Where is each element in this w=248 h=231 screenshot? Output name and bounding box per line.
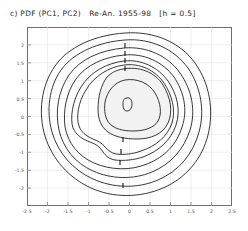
x-tick-label: 0 [128,209,131,214]
y-tick-label: -2 [11,186,24,191]
x-tick-label: 2.5 [228,209,236,214]
y-tick-label: 1.5 [11,60,24,65]
y-tick-label: 0 [11,114,24,119]
y-tick-label: -1.5 [11,168,24,173]
y-tick-label: 0.5 [11,96,24,101]
page-title: c) PDF (PC1, PC2) Re-An. 1955-98 [h = 0.… [10,9,196,18]
x-tick-label: 1.5 [187,209,195,214]
x-tick-label: -2 [45,209,50,214]
x-tick-label: -1.5 [63,209,72,214]
y-tick-label: -1 [11,150,24,155]
x-tick-label: -2.5 [22,209,31,214]
x-tick-label: 1 [169,209,172,214]
contour-canvas [27,27,232,206]
plot-area [27,27,232,206]
y-tick-label: -0.5 [11,132,24,137]
y-tick-label: 2 [11,42,24,47]
figure-panel: c) PDF (PC1, PC2) Re-An. 1955-98 [h = 0.… [0,0,248,231]
y-tick-label: 1 [11,78,24,83]
x-tick-label: 0.5 [146,209,154,214]
x-tick-label: 2 [210,209,213,214]
x-tick-label: -0.5 [104,209,113,214]
x-tick-label: -1 [86,209,91,214]
